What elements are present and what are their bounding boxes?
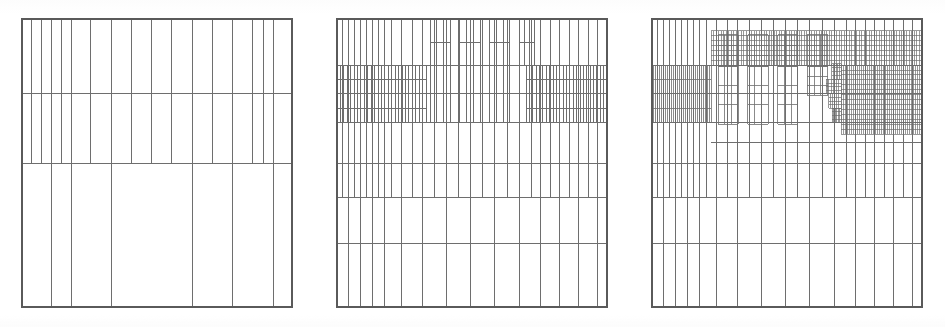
panel-left xyxy=(0,0,315,327)
amr-grid-figure xyxy=(0,0,945,327)
panel-right xyxy=(630,0,945,327)
panel-middle xyxy=(315,0,630,327)
